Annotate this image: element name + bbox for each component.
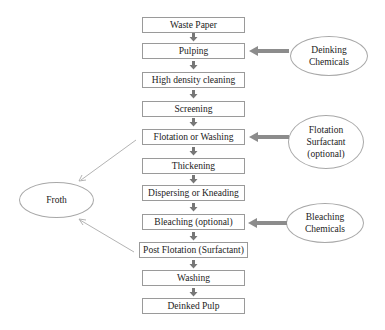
- thin-arrow-to-froth-icon: [79, 140, 136, 181]
- thin-arrow-to-froth-icon: [79, 219, 134, 252]
- thick-left-arrow-icon: [248, 218, 287, 228]
- connector-arrows: [0, 0, 385, 330]
- thick-left-arrow-icon: [249, 46, 289, 56]
- thick-left-arrow-icon: [249, 132, 289, 142]
